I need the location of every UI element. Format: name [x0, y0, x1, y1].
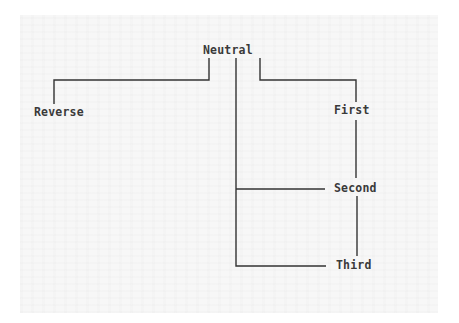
- node-first: First: [334, 104, 370, 116]
- node-third: Third: [336, 259, 372, 271]
- node-reverse: Reverse: [34, 106, 84, 118]
- node-second: Second: [334, 182, 377, 194]
- edge-neutral-first: [260, 58, 356, 102]
- node-neutral: Neutral: [203, 44, 253, 56]
- edge-neutral-third: [236, 58, 326, 266]
- edge-neutral-reverse: [54, 58, 209, 104]
